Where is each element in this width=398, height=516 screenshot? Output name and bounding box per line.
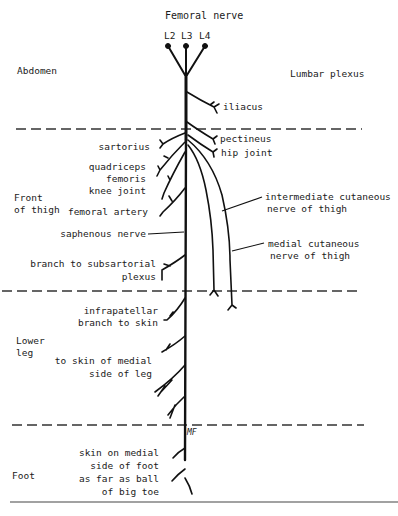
origin-lumbar-plexus: Lumbar plexus (290, 68, 364, 80)
diagram-title: Femoral nerve (165, 10, 243, 22)
root-dot-l3 (184, 44, 189, 49)
root-dot-l4 (203, 44, 208, 49)
label-quadriceps-2: femoris (106, 173, 146, 185)
medial-leg-branch-1 (162, 336, 185, 352)
label-foot-3: as far as ball (79, 473, 159, 485)
root-label-l3: L3 (181, 30, 192, 42)
medial-leg-branch-3 (168, 396, 185, 418)
region-foot: Foot (12, 470, 35, 482)
foot-branch-3 (185, 478, 192, 494)
label-medial-leg-2: side of leg (89, 368, 152, 380)
label-quadriceps-1: quadriceps (89, 161, 146, 173)
region-front-of-thigh-1: Front (14, 192, 43, 204)
root-label-l2: L2 (164, 30, 175, 42)
foot-branch-1 (173, 448, 185, 458)
label-intermediate-cutaneous-2: nerve of thigh (267, 203, 347, 215)
region-lower-leg-2: leg (16, 347, 33, 359)
label-infrapatellar-2: branch to skin (78, 317, 158, 329)
label-medial-leg-1: to skin of medial (55, 355, 152, 367)
iliacus-branch (187, 92, 219, 113)
artist-signature: MF (187, 427, 197, 439)
medial-leg-branch-2 (155, 365, 185, 396)
label-sartorius: sartorius (99, 141, 150, 153)
label-subsartorial-1: branch to subsartorial (30, 258, 156, 270)
subsartorial-branch (162, 255, 185, 280)
label-saphenous-nerve: saphenous nerve (60, 228, 146, 240)
label-foot-2: side of foot (90, 460, 159, 472)
region-abdomen: Abdomen (17, 65, 57, 77)
label-hip-joint: hip joint (221, 147, 272, 159)
intermediate-cutaneous-nerve (188, 145, 218, 296)
region-dividers (2, 129, 364, 425)
label-knee-joint: knee joint (89, 185, 146, 197)
root-label-l4: L4 (199, 30, 210, 42)
label-iliacus: iliacus (223, 101, 263, 113)
label-foot-1: skin on medial (79, 447, 159, 459)
foot-branch-2 (172, 469, 185, 481)
label-medial-cutaneous-1: medial cutaneous (268, 238, 360, 250)
label-foot-4: of big toe (102, 486, 159, 498)
label-subsartorial-2: plexus (122, 271, 156, 283)
region-lower-leg-1: Lower (16, 335, 45, 347)
nerve-roots (168, 46, 205, 75)
label-femoral-artery: femoral artery (68, 206, 148, 218)
label-intermediate-cutaneous-1: intermediate cutaneous (265, 191, 391, 203)
infrapatellar-branch (164, 298, 185, 320)
region-front-of-thigh-2: of thigh (14, 204, 60, 216)
pectineus-branch (187, 122, 217, 144)
label-medial-cutaneous-2: nerve of thigh (270, 250, 350, 262)
label-pectineus: pectineus (220, 133, 271, 145)
label-infrapatellar-1: infrapatellar (84, 305, 158, 317)
leader-lines (148, 197, 264, 251)
root-dot-l2 (166, 44, 171, 49)
